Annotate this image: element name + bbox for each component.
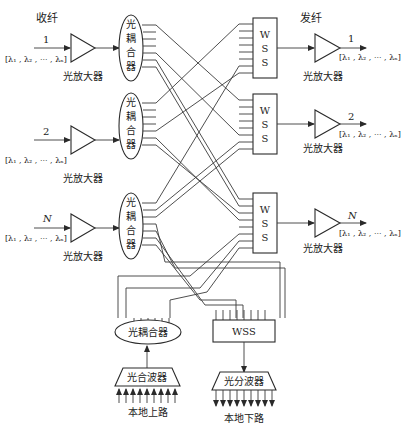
input-index-label: 2 [43, 126, 49, 137]
svg-text:耦: 耦 [126, 33, 136, 44]
output-wavelength-label: [λ₁ , λ₂ , ··· , λₙ] [339, 53, 401, 62]
output-branch-n: N [λ₁ , λ₂ , ··· , λₙ] 光放大器 [277, 209, 401, 254]
amplifier-label: 光放大器 [303, 142, 343, 154]
amplifier-label: 光放大器 [303, 242, 343, 254]
amplifier-label: 光放大器 [303, 70, 343, 82]
svg-text:W: W [260, 29, 271, 40]
svg-text:S: S [262, 119, 269, 130]
wss-1: W S S [253, 18, 277, 78]
svg-text:耦: 耦 [126, 111, 136, 122]
amplifier-icon [71, 34, 95, 62]
svg-text:S: S [262, 133, 269, 144]
svg-text:光: 光 [126, 18, 136, 30]
roadm-architecture-diagram: 收纤 发纤 1 [λ₁ , λ₂ , ··· , λₙ] 光放大器 光 耦 合 … [0, 0, 406, 433]
svg-text:合: 合 [126, 224, 136, 236]
input-wavelength-label: [λ₁ , λ₂ , ··· , λₙ] [5, 156, 67, 165]
input-branch-2: 2 [λ₁ , λ₂ , ··· , λₙ] 光放大器 光 耦 合 器 [5, 93, 143, 184]
amplifier-icon [71, 214, 95, 242]
wss-horizontal-label: WSS [232, 326, 256, 337]
amplifier-icon [315, 209, 340, 237]
demultiplexer-label: 光分波器 [224, 375, 264, 387]
svg-text:S: S [262, 43, 269, 54]
input-index-label: 1 [43, 34, 49, 45]
output-index-label: 1 [348, 33, 354, 44]
local-add-label: 本地上路 [128, 406, 168, 418]
svg-text:S: S [262, 232, 269, 243]
amplifier-label: 光放大器 [63, 172, 103, 184]
output-wavelength-label: [λ₁ , λ₂ , ··· , λₙ] [339, 229, 401, 238]
amplifier-icon [315, 110, 340, 138]
local-drop-label: 本地下路 [224, 412, 264, 424]
svg-text:器: 器 [126, 139, 136, 150]
svg-text:W: W [260, 105, 271, 116]
demultiplexer: 光分波器 本地下路 [212, 342, 276, 424]
amplifier-icon [71, 126, 95, 154]
svg-text:器: 器 [126, 61, 136, 72]
output-branch-2: 2 [λ₁ , λ₂ , ··· , λₙ] 光放大器 [277, 110, 401, 154]
input-branch-1: 1 [λ₁ , λ₂ , ··· , λₙ] 光放大器 光 耦 合 器 [5, 15, 143, 82]
svg-text:合: 合 [126, 46, 136, 58]
coupler-output-ports [142, 25, 156, 245]
amplifier-label: 光放大器 [63, 250, 103, 262]
multiplexer: 光合波器 本地上路 [115, 346, 180, 418]
multiplexer-label: 光合波器 [127, 371, 167, 383]
coupler-horizontal-label: 光耦合器 [128, 326, 168, 338]
svg-text:S: S [262, 218, 269, 229]
input-wavelength-label: [λ₁ , λ₂ , ··· , λₙ] [5, 55, 67, 64]
output-index-label: 2 [348, 111, 354, 122]
tx-fiber-label: 发纤 [300, 11, 322, 25]
output-index-label: N [347, 210, 358, 221]
input-branch-n: N [λ₁ , λ₂ , ··· , λₙ] 光放大器 光 耦 合 器 [5, 193, 143, 262]
svg-text:W: W [260, 204, 271, 215]
wss-2: W S S [253, 94, 277, 154]
local-drop-wss: WSS [213, 310, 275, 342]
wss-input-ports [239, 24, 253, 248]
output-wavelength-label: [λ₁ , λ₂ , ··· , λₙ] [339, 130, 401, 139]
input-index-label: N [42, 213, 53, 224]
local-add-coupler: 光耦合器 [115, 318, 181, 344]
rx-fiber-label: 收纤 [36, 11, 58, 25]
svg-text:合: 合 [126, 124, 136, 136]
svg-text:器: 器 [126, 239, 136, 250]
output-branch-1: 1 [λ₁ , λ₂ , ··· , λₙ] 光放大器 [277, 33, 401, 82]
amplifier-label: 光放大器 [63, 70, 103, 82]
svg-text:光: 光 [126, 96, 136, 108]
svg-text:耦: 耦 [126, 211, 136, 222]
input-wavelength-label: [λ₁ , λ₂ , ··· , λₙ] [5, 234, 67, 243]
amplifier-icon [315, 34, 340, 62]
svg-text:光: 光 [126, 196, 136, 208]
wss-n: W S S [253, 193, 277, 253]
svg-text:S: S [262, 57, 269, 68]
